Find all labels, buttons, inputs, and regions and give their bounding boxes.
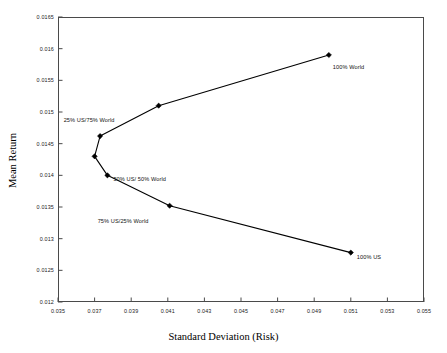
data-point-label: 25% US/75% World <box>64 117 115 123</box>
x-axis-tick-label: 0.039 <box>124 308 138 314</box>
chart-svg <box>0 0 447 353</box>
x-axis-title: Standard Deviation (Risk) <box>0 331 447 342</box>
data-point-label: 50% US/ 50% World <box>113 176 166 182</box>
data-point-marker[interactable] <box>326 52 331 57</box>
x-axis-tick-label: 0.053 <box>380 308 394 314</box>
y-axis-tick-label: 0.015 <box>14 109 54 115</box>
x-axis-tick-label: 0.049 <box>307 308 321 314</box>
data-point-marker[interactable] <box>348 250 353 255</box>
x-axis-tick-label: 0.055 <box>417 308 431 314</box>
data-point-marker[interactable] <box>97 133 102 138</box>
x-axis-tick-label: 0.051 <box>344 308 358 314</box>
y-axis-tick-label: 0.0135 <box>14 204 54 210</box>
x-axis-tick-label: 0.035 <box>51 308 65 314</box>
y-axis-tick-label: 0.0125 <box>14 267 54 273</box>
x-axis-tick-label: 0.043 <box>197 308 211 314</box>
data-point-label: 75% US/25% World <box>98 218 149 224</box>
chart-container: 0.0120.01250.0130.01350.0140.01450.0150.… <box>0 0 447 353</box>
x-axis-tick-label: 0.047 <box>270 308 284 314</box>
y-axis-tick-label: 0.016 <box>14 46 54 52</box>
data-point-label: 100% US <box>357 254 381 260</box>
y-axis-tick-label: 0.012 <box>14 299 54 305</box>
y-axis-tick-label: 0.014 <box>14 172 54 178</box>
y-axis-tick-label: 0.013 <box>14 236 54 242</box>
x-axis-tick-label: 0.045 <box>234 308 248 314</box>
data-point-marker[interactable] <box>167 203 172 208</box>
data-point-marker[interactable] <box>156 103 161 108</box>
y-axis-tick-label: 0.0155 <box>14 77 54 83</box>
y-axis-tick-label: 0.0145 <box>14 141 54 147</box>
x-axis-tick-label: 0.041 <box>161 308 175 314</box>
data-point-label: 100% World <box>333 64 364 70</box>
y-axis-tick-label: 0.0165 <box>14 14 54 20</box>
x-axis-tick-label: 0.037 <box>87 308 101 314</box>
y-axis-title: Mean Return <box>7 116 18 206</box>
